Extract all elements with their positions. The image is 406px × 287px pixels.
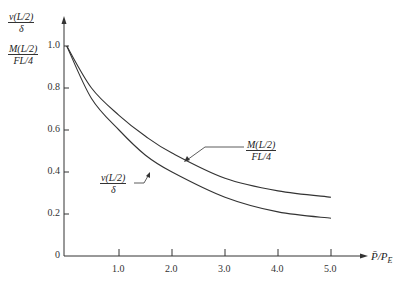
y-label-deflection: v(L/2) δ [8, 11, 34, 34]
x-tick-label: 5.0 [324, 263, 337, 274]
curve-label-moment: M(L/2) FL/4 [246, 139, 276, 162]
leader-line-M-diag [187, 147, 205, 160]
x-axis-arrow-icon [360, 254, 368, 259]
y-label-moment: M(L/2) FL/4 [8, 43, 38, 66]
y-tick-label: 0.8 [48, 81, 61, 92]
y-tick-label: 0.2 [48, 207, 61, 218]
x-tick-label: 4.0 [271, 263, 284, 274]
y-axis-arrow-icon [62, 16, 67, 24]
y-tick-label: 1.0 [48, 39, 61, 50]
y-tick-label: 0.4 [48, 165, 61, 176]
curve-label-deflection: v(L/2) δ [100, 172, 126, 195]
chart-plot [0, 0, 406, 287]
x-tick-label: 3.0 [218, 263, 231, 274]
y-tick-label: 0 [55, 249, 60, 260]
leader-arrow-v-icon [146, 172, 150, 178]
x-tick-label: 1.0 [112, 263, 125, 274]
leader-line-v [134, 176, 148, 183]
y-tick-label: 0.6 [48, 123, 61, 134]
x-tick-label: 2.0 [165, 263, 178, 274]
x-axis-label: P̄/PE [371, 250, 392, 265]
axes [62, 16, 369, 259]
